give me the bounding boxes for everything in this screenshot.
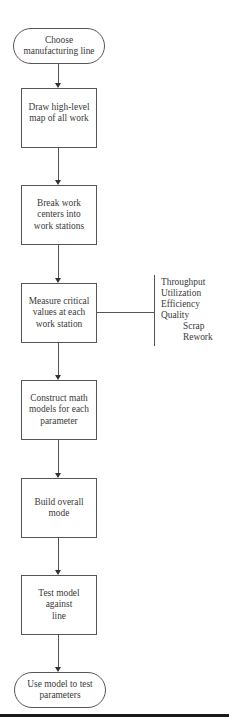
step-test-model: Test model against line [21, 575, 97, 635]
start-terminal: Choose manufacturing line [13, 28, 105, 64]
connector-line [58, 64, 59, 84]
annotation-bracket [154, 275, 155, 346]
parameter-subitem: Scrap [161, 321, 213, 332]
parameter-item: Throughput [161, 277, 213, 288]
step-label: Break work centers into work stations [34, 198, 84, 232]
step-label: Build overall mode [34, 497, 83, 519]
parameter-item: Utilization [161, 288, 213, 299]
annotation-connector [97, 312, 154, 313]
step-label: Draw high-level map of all work [28, 102, 89, 124]
step-construct-models: Construct math models for each parameter [21, 380, 97, 440]
connector-line [58, 538, 59, 571]
step-measure-values: Measure critical values at each work sta… [21, 283, 97, 343]
connector-line [58, 440, 59, 474]
bottom-rule [0, 714, 229, 717]
parameter-item: Quality [161, 310, 213, 321]
parameter-item: Efficiency [161, 299, 213, 310]
parameter-subitem: Rework [161, 332, 213, 343]
step-label: Construct math models for each parameter [29, 393, 89, 427]
step-break-work-centers: Break work centers into work stations [21, 185, 97, 245]
end-terminal: Use model to test parameters [14, 672, 106, 708]
connector-line [58, 245, 59, 279]
connector-line [58, 343, 59, 376]
end-label: Use model to test parameters [27, 679, 92, 701]
connector-line [58, 148, 59, 181]
step-label: Measure critical values at each work sta… [29, 296, 90, 330]
parameter-list: Throughput Utilization Efficiency Qualit… [161, 277, 213, 343]
step-label: Test model against line [38, 588, 79, 622]
step-build-overall-model: Build overall mode [21, 478, 97, 538]
start-label: Choose manufacturing line [23, 35, 94, 57]
step-draw-map: Draw high-level map of all work [21, 88, 97, 148]
connector-line [58, 635, 59, 668]
